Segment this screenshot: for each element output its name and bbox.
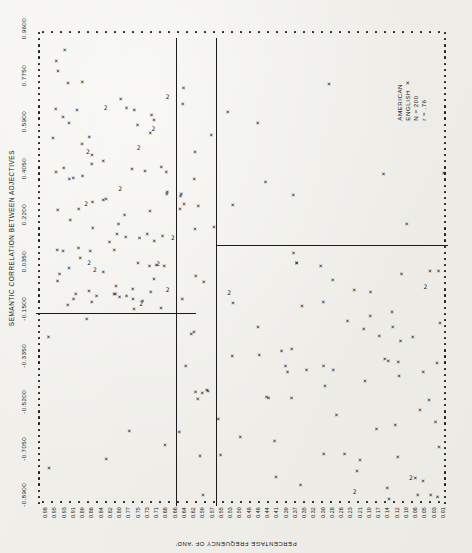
y-axis-tick-label: 0.66 xyxy=(172,507,178,518)
axis-tick-dot xyxy=(42,501,44,503)
data-point-marker: × xyxy=(182,201,186,208)
data-point-marker: × xyxy=(291,191,295,198)
axis-tick-dot xyxy=(357,501,359,503)
axis-tick-dot xyxy=(38,221,40,223)
axis-tick-dot xyxy=(444,63,446,65)
data-point-marker: × xyxy=(117,221,121,228)
data-point-marker: × xyxy=(95,293,99,300)
y-axis-title: PERCENTAGE FREQUENCY OF 'AND' xyxy=(0,541,472,547)
data-point-marker: × xyxy=(55,277,59,284)
axis-tick-dot xyxy=(240,501,242,503)
axis-tick-dot xyxy=(38,435,40,437)
axis-tick-dot xyxy=(222,31,224,33)
axis-tick-dot xyxy=(38,319,40,321)
data-point-marker: × xyxy=(51,135,55,142)
axis-tick-dot xyxy=(411,501,413,503)
y-axis-tick-label: 0.28 xyxy=(329,507,335,518)
horizontal-divider-left xyxy=(36,313,196,314)
axis-tick-dot xyxy=(444,483,446,485)
axis-tick-dot xyxy=(38,422,40,424)
data-point-marker: × xyxy=(305,367,309,374)
data-point-marker: × xyxy=(71,174,75,181)
data-point-marker: 2 xyxy=(151,125,155,132)
axis-tick-dot xyxy=(69,501,71,503)
data-point-marker: × xyxy=(345,317,349,324)
axis-tick-dot xyxy=(213,31,215,33)
data-point-marker: × xyxy=(226,109,230,116)
axis-tick-dot xyxy=(444,50,446,52)
data-point-marker: × xyxy=(81,172,85,179)
data-point-marker: × xyxy=(165,188,169,195)
axis-tick-dot xyxy=(87,501,89,503)
axis-tick-dot xyxy=(444,422,446,424)
y-axis-tick-label: 0.35 xyxy=(301,507,307,518)
axis-tick-dot xyxy=(444,209,446,211)
axis-tick-dot xyxy=(38,465,40,467)
y-axis-tick-label: 0.53 xyxy=(227,507,233,518)
data-point-marker: × xyxy=(130,166,134,173)
axis-tick-dot xyxy=(444,75,446,77)
data-point-marker: × xyxy=(152,237,156,244)
axis-tick-dot xyxy=(150,501,152,503)
data-point-marker: × xyxy=(124,234,128,241)
axis-tick-dot xyxy=(330,31,332,33)
axis-tick-dot xyxy=(393,31,395,33)
data-point-marker: × xyxy=(67,175,71,182)
data-point-marker: 2 xyxy=(156,260,160,267)
axis-tick-dot xyxy=(384,31,386,33)
axis-tick-dot xyxy=(38,136,40,138)
x-axis-tick-label: 0.0350 xyxy=(20,251,27,272)
axis-tick-dot xyxy=(177,31,179,33)
data-point-marker: × xyxy=(61,248,65,255)
data-point-marker: × xyxy=(119,95,123,102)
axis-tick-dot xyxy=(96,501,98,503)
data-point-marker: × xyxy=(201,492,205,499)
data-point-marker: × xyxy=(90,161,94,168)
axis-tick-dot xyxy=(444,404,446,406)
axis-tick-dot xyxy=(444,221,446,223)
y-axis-tick-label: 0.44 xyxy=(264,507,270,518)
axis-tick-dot xyxy=(267,31,269,33)
data-point-marker: × xyxy=(216,416,220,423)
axis-tick-dot xyxy=(444,270,446,272)
data-point-marker: × xyxy=(342,451,346,458)
axis-tick-dot xyxy=(444,465,446,467)
axis-tick-dot xyxy=(38,398,40,400)
data-point-marker: 2 xyxy=(84,200,88,207)
data-point-marker: × xyxy=(290,346,294,353)
axis-tick-dot xyxy=(38,288,40,290)
data-point-marker: × xyxy=(78,255,82,262)
axis-tick-dot xyxy=(303,501,305,503)
axis-tick-dot xyxy=(444,496,446,498)
x-axis-tick-label: -0.1500 xyxy=(20,297,27,321)
axis-tick-dot xyxy=(38,258,40,260)
data-point-marker: × xyxy=(323,382,327,389)
axis-tick-dot xyxy=(249,501,251,503)
data-point-marker: × xyxy=(385,484,389,491)
axis-tick-dot xyxy=(444,81,446,83)
data-point-marker: × xyxy=(182,85,186,92)
axis-tick-dot xyxy=(38,502,40,504)
axis-tick-dot xyxy=(168,501,170,503)
axis-tick-dot xyxy=(38,477,40,479)
data-point-marker: × xyxy=(46,333,50,340)
data-point-marker: × xyxy=(397,372,401,379)
data-point-marker: × xyxy=(125,105,129,112)
x-axis-tick-label: -0.8900 xyxy=(20,483,27,507)
data-point-marker: × xyxy=(148,263,152,270)
y-axis-tick-label: 0.32 xyxy=(310,507,316,518)
y-axis-tick-label: 0.75 xyxy=(135,507,141,518)
axis-tick-dot xyxy=(38,81,40,83)
data-point-marker: × xyxy=(286,369,290,376)
data-point-marker: × xyxy=(396,454,400,461)
data-point-marker: × xyxy=(382,171,386,178)
data-point-marker: × xyxy=(421,369,425,376)
axis-tick-dot xyxy=(444,416,446,418)
data-point-marker: × xyxy=(205,387,209,394)
data-point-marker: × xyxy=(138,235,142,242)
axis-tick-dot xyxy=(38,453,40,455)
data-point-marker: 2 xyxy=(87,260,91,267)
data-point-marker: × xyxy=(399,338,403,345)
y-axis-tick-label: 0.59 xyxy=(199,507,205,518)
axis-tick-dot xyxy=(38,44,40,46)
